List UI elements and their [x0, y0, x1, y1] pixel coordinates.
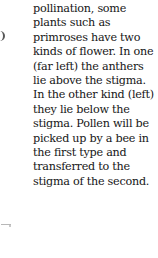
caption-line: transferred to the — [33, 160, 158, 174]
caption-line: pollination, some — [33, 2, 158, 16]
caption-line: primroses have two — [33, 31, 158, 45]
caption-line: lie above the stigma. — [33, 74, 158, 88]
caption-line: plants such as — [33, 16, 158, 30]
caption-line: stigma. Pollen will be — [33, 117, 158, 131]
caption-line: In the other kind (left) — [33, 88, 158, 102]
illustration-edge-fragment — [0, 31, 5, 41]
caption-line: the first type and — [33, 146, 158, 160]
caption-line: stigma of the second. — [33, 175, 158, 189]
document-page: pollination, some plants such as primros… — [0, 0, 158, 258]
caption-line: kinds of flower. In one — [33, 45, 158, 59]
illustration-dot-fragment — [9, 225, 11, 227]
caption-line: picked up by a bee in — [33, 132, 158, 146]
pollination-caption: pollination, some plants such as primros… — [33, 2, 158, 189]
caption-line: they lie below the — [33, 103, 158, 117]
caption-line: (far left) the anthers — [33, 60, 158, 74]
